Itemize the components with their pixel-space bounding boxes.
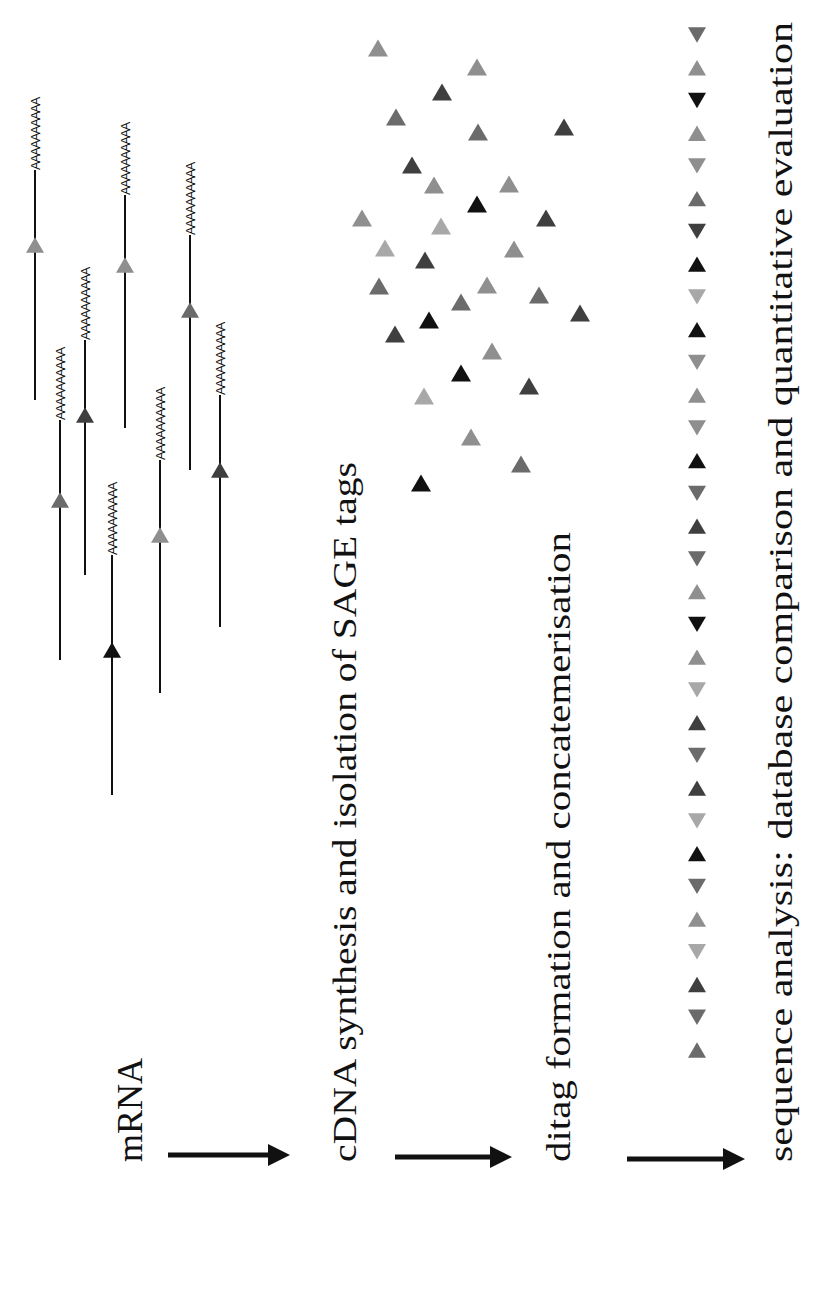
poly-a-tail: AAAAAAAAAA	[53, 346, 68, 420]
sage-tag-icon	[369, 278, 389, 295]
concatemer-tag-icon	[688, 780, 706, 795]
sage-tag-icon	[451, 365, 471, 382]
concatemer-tag-icon	[688, 682, 706, 697]
arrow-ditag-to-sequence	[627, 1148, 745, 1170]
concatemer-tag-icon	[688, 813, 706, 828]
sage-tag-icon	[352, 210, 372, 227]
sage-tag-icon	[499, 176, 519, 193]
sage-tag-icon	[570, 305, 590, 322]
concatemer-tag-icon	[688, 551, 706, 566]
concatemer-tag-icon	[688, 879, 706, 894]
sage-tag-icon	[536, 210, 556, 227]
sage-tag-icon	[467, 59, 487, 76]
arrow-head-icon	[268, 1144, 290, 1166]
sage-diagram: AAAAAAAAAAAAAAAAAAAAAAAAAAAAAAAAAAAAAAAA…	[0, 0, 820, 1293]
concatemer-tag-icon	[688, 289, 706, 304]
concatemer-tag-icon	[688, 846, 706, 861]
sage-tag-icon	[511, 456, 531, 473]
sage-tag-icon	[414, 388, 434, 405]
tag-triangle-icon	[76, 407, 94, 422]
mrna-molecule: AAAAAAAAAA	[103, 481, 121, 795]
tag-triangle-icon	[151, 527, 169, 542]
concatemer-tag-icon	[688, 224, 706, 239]
concatemer-tag-icon	[688, 944, 706, 959]
concatemer-tag-icon	[688, 27, 706, 42]
mrna-molecule: AAAAAAAAAA	[181, 161, 199, 470]
sage-tag-icon	[554, 119, 574, 136]
poly-a-tail: AAAAAAAAAA	[118, 121, 133, 195]
mrna-molecule: AAAAAAAAAA	[116, 121, 134, 428]
concatemer-tag-icon	[688, 158, 706, 173]
sage-tag-icon	[431, 218, 451, 235]
sage-tags-scatter	[352, 40, 590, 492]
tag-triangle-icon	[181, 302, 199, 317]
poly-a-tail: AAAAAAAAAA	[153, 386, 168, 460]
tag-triangle-icon	[51, 492, 69, 507]
concatemer-tag-icon	[688, 715, 706, 730]
concatemer-tag-icon	[688, 584, 706, 599]
mrna-molecule: AAAAAAAAAA	[26, 96, 44, 400]
step-label-cdna: cDNA synthesis and isolation of SAGE tag…	[326, 462, 363, 1162]
concatemer-tag-icon	[688, 911, 706, 926]
poly-a-tail: AAAAAAAAAA	[213, 321, 228, 395]
arrow-mrna-to-cdna	[168, 1144, 290, 1166]
concatemer-tag-icon	[688, 649, 706, 664]
sage-tag-icon	[411, 475, 431, 492]
sage-tag-icon	[432, 84, 452, 101]
sage-tag-icon	[529, 287, 549, 304]
concatemer-tag-icon	[688, 388, 706, 403]
mrna-molecule: AAAAAAAAAA	[76, 266, 94, 575]
sage-tag-icon	[451, 294, 471, 311]
concatemer-tag-icon	[688, 977, 706, 992]
concatemer-tag-icon	[688, 257, 706, 272]
mrna-molecule: AAAAAAAAAA	[51, 346, 69, 660]
concatemer-tag-icon	[688, 355, 706, 370]
sage-tag-icon	[375, 240, 395, 257]
arrow-cdna-to-ditag	[395, 1146, 512, 1168]
concatemer-tag-icon	[688, 60, 706, 75]
mrna-molecule: AAAAAAAAAA	[211, 321, 229, 627]
concatemer-tag-icon	[688, 617, 706, 632]
concatemer-tag-icon	[688, 93, 706, 108]
tag-triangle-icon	[26, 237, 44, 252]
arrow-head-icon	[490, 1146, 512, 1168]
sage-tag-icon	[468, 124, 488, 141]
concatemer-tag-icon	[688, 322, 706, 337]
arrow-head-icon	[723, 1148, 745, 1170]
step-label-mrna: mRNA	[110, 1058, 150, 1162]
sage-tag-icon	[386, 109, 406, 126]
step-label-ditag: ditag formation and concatemerisation	[540, 532, 577, 1162]
sage-tag-icon	[482, 343, 502, 360]
poly-a-tail: AAAAAAAAAA	[28, 96, 43, 170]
concatemer-tag-icon	[688, 518, 706, 533]
sage-tag-icon	[424, 177, 444, 194]
sage-tag-icon	[415, 252, 435, 269]
sage-tag-icon	[419, 312, 439, 329]
sage-tag-icon	[402, 157, 422, 174]
concatemer-tag-icon	[688, 191, 706, 206]
concatemer-tag-icon	[688, 1042, 706, 1057]
sage-tag-icon	[461, 429, 481, 446]
ditag-concatemer	[688, 27, 706, 1057]
sage-tag-icon	[504, 241, 524, 258]
sage-tag-icon	[519, 378, 539, 395]
poly-a-tail: AAAAAAAAAA	[105, 481, 120, 555]
tag-triangle-icon	[103, 642, 121, 657]
sage-tag-icon	[368, 40, 388, 57]
mrna-molecule: AAAAAAAAAA	[151, 386, 169, 693]
step-label-sequence: sequence analysis: database comparison a…	[762, 22, 799, 1162]
concatemer-tag-icon	[688, 453, 706, 468]
concatemer-tag-icon	[688, 420, 706, 435]
concatemer-tag-icon	[688, 1010, 706, 1025]
sage-tag-icon	[477, 277, 497, 294]
concatemer-tag-icon	[688, 748, 706, 763]
tag-triangle-icon	[116, 257, 134, 272]
tag-triangle-icon	[211, 462, 229, 477]
concatemer-tag-icon	[688, 126, 706, 141]
poly-a-tail: AAAAAAAAAA	[183, 161, 198, 235]
mrna-molecules: AAAAAAAAAAAAAAAAAAAAAAAAAAAAAAAAAAAAAAAA…	[26, 96, 229, 795]
concatemer-tag-icon	[688, 486, 706, 501]
sage-tag-icon	[385, 326, 405, 343]
poly-a-tail: AAAAAAAAAA	[78, 266, 93, 340]
sage-tag-icon	[467, 196, 487, 213]
